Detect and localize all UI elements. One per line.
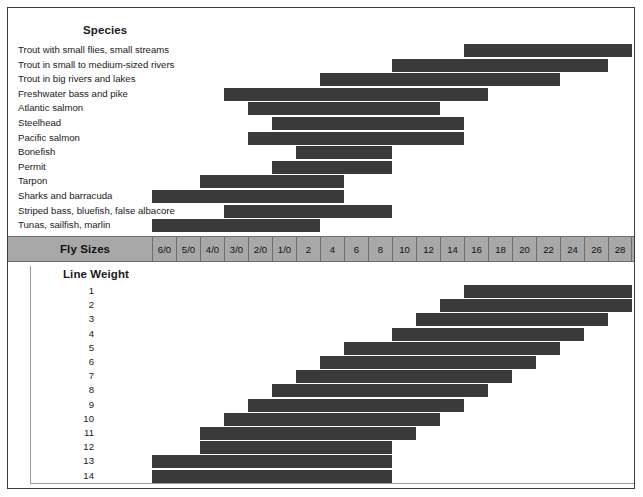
species-range-bar — [248, 102, 440, 115]
species-label: Permit — [18, 161, 46, 172]
species-label: Atlantic salmon — [18, 102, 83, 113]
fly-sizes-band: Fly Sizes 6/05/04/03/02/01/0246810121416… — [8, 236, 634, 262]
fly-size-cell[interactable]: 14 — [440, 237, 464, 261]
species-range-bar — [224, 88, 488, 101]
species-label: Freshwater bass and pike — [18, 88, 128, 99]
line-weight-range-bar — [200, 441, 392, 454]
line-weight-range-bar — [392, 328, 584, 341]
species-range-bar — [464, 44, 632, 57]
line-weight-label: 1 — [48, 285, 94, 296]
line-weight-axis-line — [30, 266, 31, 484]
species-range-bar — [152, 219, 320, 232]
line-weight-label: 9 — [48, 399, 94, 410]
line-weight-label: 13 — [48, 455, 94, 466]
species-panel: Species Trout with small flies, small st… — [8, 8, 634, 236]
fly-size-chart-page: Species Trout with small flies, small st… — [0, 0, 643, 497]
fly-size-cell[interactable]: 18 — [488, 237, 512, 261]
line-weight-label: 7 — [48, 370, 94, 381]
line-weight-range-bar — [344, 342, 560, 355]
line-weight-label: 14 — [48, 470, 94, 481]
species-range-bar — [392, 59, 608, 72]
species-range-bar — [296, 146, 392, 159]
fly-size-cell[interactable]: 4 — [320, 237, 344, 261]
line-weight-range-bar — [272, 384, 488, 397]
line-weight-label: 5 — [48, 342, 94, 353]
species-label: Tunas, sailfish, marlin — [18, 219, 110, 230]
fly-size-cell[interactable]: 2/0 — [248, 237, 272, 261]
line-weight-label: 3 — [48, 313, 94, 324]
species-range-bar — [248, 132, 464, 145]
fly-size-cell[interactable]: 1/0 — [272, 237, 296, 261]
fly-size-cell[interactable]: 16 — [464, 237, 488, 261]
fly-size-cell[interactable]: 26 — [584, 237, 608, 261]
line-weight-panel: Line Weight 1234567891011121314 — [8, 262, 634, 488]
fly-size-cell[interactable]: 2 — [296, 237, 320, 261]
line-weight-label: 11 — [48, 427, 94, 438]
species-label: Striped bass, bluefish, false albacore — [18, 205, 175, 216]
species-range-bar — [272, 117, 464, 130]
line-weight-label: 6 — [48, 356, 94, 367]
species-label: Steelhead — [18, 117, 61, 128]
line-weight-range-bar — [320, 356, 536, 369]
species-label: Trout with small flies, small streams — [18, 44, 169, 55]
fly-size-cell[interactable]: 20 — [512, 237, 536, 261]
fly-size-cell[interactable]: 4/0 — [200, 237, 224, 261]
species-range-bar — [272, 161, 392, 174]
line-weight-range-bar — [440, 299, 632, 312]
species-range-bar — [224, 205, 392, 218]
line-weight-range-bar — [464, 285, 632, 298]
species-label: Bonefish — [18, 146, 55, 157]
fly-size-cell[interactable]: 24 — [560, 237, 584, 261]
species-range-bar — [152, 190, 344, 203]
species-label: Trout in big rivers and lakes — [18, 73, 136, 84]
line-weight-range-bar — [416, 313, 608, 326]
species-label: Trout in small to medium-sized rivers — [18, 59, 174, 70]
fly-sizes-title: Fly Sizes — [60, 243, 110, 255]
line-weight-label: 2 — [48, 299, 94, 310]
species-range-bar — [320, 73, 560, 86]
fly-size-cell[interactable]: 28 — [608, 237, 632, 261]
fly-size-cell[interactable]: 6 — [344, 237, 368, 261]
fly-size-cell[interactable]: 12 — [416, 237, 440, 261]
line-weight-baseline — [30, 483, 634, 484]
line-weight-range-bar — [248, 399, 464, 412]
line-weight-range-bar — [224, 413, 440, 426]
fly-size-cell[interactable]: 10 — [392, 237, 416, 261]
fly-size-cell[interactable]: 6/0 — [152, 237, 176, 261]
fly-size-cell[interactable]: 8 — [368, 237, 392, 261]
line-weight-label: 8 — [48, 384, 94, 395]
species-range-bar — [200, 175, 344, 188]
fly-size-cell[interactable]: 5/0 — [176, 237, 200, 261]
species-label: Pacific salmon — [18, 132, 80, 143]
species-column-title: Species — [83, 24, 127, 36]
line-weight-range-bar — [296, 370, 512, 383]
line-weight-range-bar — [152, 470, 392, 483]
line-weight-column-title: Line Weight — [63, 268, 129, 280]
line-weight-label: 12 — [48, 441, 94, 452]
line-weight-range-bar — [200, 427, 416, 440]
species-label: Sharks and barracuda — [18, 190, 112, 201]
species-label: Tarpon — [18, 175, 47, 186]
line-weight-label: 4 — [48, 328, 94, 339]
fly-size-cell[interactable]: 3/0 — [224, 237, 248, 261]
fly-size-cell[interactable]: 22 — [536, 237, 560, 261]
line-weight-range-bar — [152, 455, 392, 468]
line-weight-label: 10 — [48, 413, 94, 424]
